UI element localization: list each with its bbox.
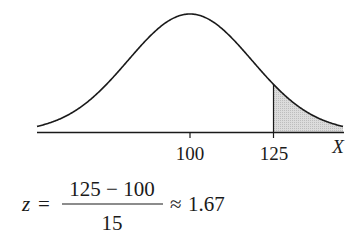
formula-equals: = (38, 192, 50, 216)
formula-denominator: 15 (102, 211, 123, 235)
tick-label-125: 125 (260, 143, 289, 164)
tick-label-100: 100 (176, 143, 205, 164)
formula-result: 1.67 (188, 192, 225, 216)
normal-curve-figure: 100 125 X z = 125 − 100 15 ≈ 1.67 (0, 0, 364, 238)
axis-label-x: X (331, 136, 345, 157)
formula-z: z (21, 192, 30, 216)
formula-numerator: 125 − 100 (69, 177, 154, 201)
formula-approx: ≈ (170, 192, 182, 216)
shaded-tail-region (274, 84, 344, 132)
